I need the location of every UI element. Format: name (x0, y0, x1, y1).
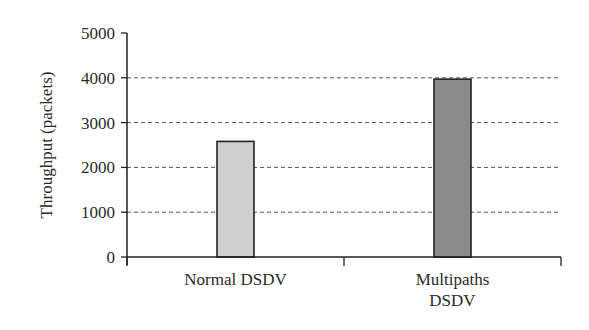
y-axis-title: Throughput (packets) (37, 72, 56, 219)
y-tick-label: 0 (107, 248, 116, 267)
y-tick-label: 1000 (81, 203, 115, 222)
throughput-bar-chart: 010002000300040005000 Normal DSDVMultipa… (0, 0, 589, 330)
bar-normal-dsdv (217, 141, 254, 257)
x-axis-labels: Normal DSDVMultipathsDSDV (184, 270, 489, 310)
x-category-label: DSDV (429, 291, 476, 310)
axes (127, 33, 561, 266)
y-tick-label: 2000 (81, 158, 115, 177)
y-axis-ticks: 010002000300040005000 (81, 24, 127, 267)
bar-multipaths-dsdv (434, 79, 471, 257)
y-tick-label: 5000 (81, 24, 115, 43)
chart-canvas: 010002000300040005000 Normal DSDVMultipa… (0, 0, 589, 330)
x-category-label: Multipaths (416, 270, 490, 289)
bars (217, 79, 471, 257)
gridlines (127, 78, 561, 212)
y-tick-label: 4000 (81, 69, 115, 88)
y-tick-label: 3000 (81, 114, 115, 133)
x-category-label: Normal DSDV (184, 270, 287, 289)
